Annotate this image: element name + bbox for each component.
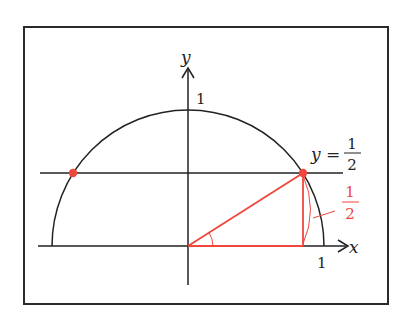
height-label-numerator: 1 <box>345 183 355 201</box>
line-equation-denominator: 2 <box>347 156 357 174</box>
left-intersection-point <box>69 169 77 177</box>
x-tick-label: 1 <box>317 254 327 272</box>
unit-circle-diagram: y 1 x 1 y = 1 2 1 2 <box>0 0 405 321</box>
line-equation-lhs: y = <box>310 144 340 164</box>
line-equation-numerator: 1 <box>347 135 357 153</box>
height-label-denominator: 2 <box>345 205 355 223</box>
y-axis-label: y <box>180 47 191 67</box>
right-intersection-point <box>299 169 307 177</box>
height-label-leader <box>313 211 335 218</box>
x-axis-label: x <box>349 237 359 257</box>
y-tick-label: 1 <box>196 90 206 108</box>
angle-arc-icon <box>209 233 213 246</box>
triangle-hypotenuse <box>188 173 303 246</box>
